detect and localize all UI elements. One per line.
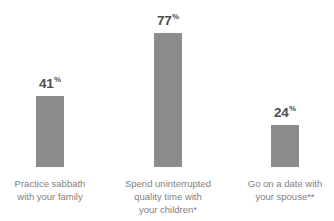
percent-symbol-0: %	[54, 75, 61, 84]
bar-group-quality-time: 77%	[113, 0, 223, 168]
bar-1[interactable]	[154, 33, 182, 167]
bar-group-practice-sabbath: 41%	[0, 0, 105, 168]
category-labels: Practice sabbath with your family Spend …	[0, 168, 334, 221]
bar-value-label-1: 77%	[157, 13, 179, 27]
category-label-1: Spend uninterrupted quality time with yo…	[109, 177, 227, 216]
bar-0[interactable]	[36, 96, 64, 167]
bar-value-label-2: 24%	[274, 105, 296, 119]
bar-2[interactable]	[271, 125, 299, 167]
category-label-2: Go on a date with your spouse**	[226, 177, 334, 203]
chart-plot-area: 41% 77% 24%	[0, 0, 334, 168]
bar-value-number-1: 77	[157, 13, 172, 28]
category-label-0: Practice sabbath with your family	[0, 177, 109, 203]
bar-value-label-0: 41%	[39, 76, 61, 90]
percent-symbol-1: %	[172, 12, 179, 21]
bar-chart: 41% 77% 24% Practice sabbath with your f…	[0, 0, 334, 221]
bar-value-number-0: 41	[39, 76, 54, 91]
category-label-2-line-0: Go on a date with	[226, 177, 334, 190]
category-label-0-line-0: Practice sabbath	[0, 177, 109, 190]
category-label-0-line-1: with your family	[0, 190, 109, 203]
category-label-2-line-1: your spouse**	[226, 190, 334, 203]
bar-value-number-2: 24	[274, 105, 289, 120]
category-label-1-line-2: your children*	[109, 203, 227, 216]
category-label-1-line-1: quality time with	[109, 190, 227, 203]
category-label-1-line-0: Spend uninterrupted	[109, 177, 227, 190]
bar-group-date-spouse: 24%	[230, 0, 334, 168]
percent-symbol-2: %	[289, 104, 296, 113]
